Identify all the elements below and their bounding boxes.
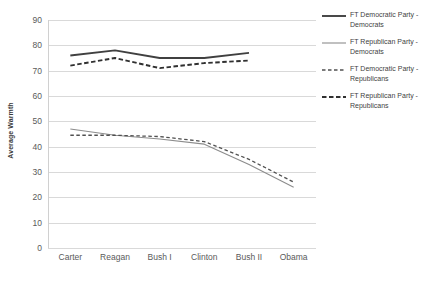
plot-area: [48, 20, 316, 248]
legend-line-swatch-icon: [322, 64, 346, 76]
x-axis-tick-label: Clinton: [191, 252, 217, 262]
legend-label: FT Republican Party - Democrats: [350, 37, 418, 57]
y-axis-tick-label: 40: [33, 142, 42, 152]
series-line: [70, 129, 293, 187]
legend-entry[interactable]: FT Republican Party - Democrats: [322, 37, 432, 57]
series-line: [70, 50, 249, 58]
y-axis-tick-label: 60: [33, 91, 42, 101]
legend-line-swatch-icon: [322, 37, 346, 49]
x-axis-tick-label: Obama: [280, 252, 308, 262]
y-axis-tick-label: 20: [33, 192, 42, 202]
y-axis-tick-label: 80: [33, 40, 42, 50]
series-lines: [48, 20, 316, 248]
legend-label: FT Republican Party - Republicans: [350, 91, 418, 111]
chart-legend: FT Democratic Party - DemocratsFT Republ…: [322, 10, 432, 118]
y-axis-tick-label: 30: [33, 167, 42, 177]
y-axis-tick-label: 50: [33, 116, 42, 126]
x-axis-tick-label: Bush II: [236, 252, 262, 262]
legend-entry[interactable]: FT Republican Party - Republicans: [322, 91, 432, 111]
legend-line-swatch-icon: [322, 10, 346, 22]
y-axis-tick-label: 10: [33, 218, 42, 228]
x-axis-tick-label: Carter: [59, 252, 83, 262]
legend-entry[interactable]: FT Democratic Party - Democrats: [322, 10, 432, 30]
y-axis-tick-label: 90: [33, 15, 42, 25]
x-axis-tick-label: Reagan: [100, 252, 130, 262]
y-axis-title-text: Average Warmth: [7, 102, 14, 159]
y-axis-tick-label: 0: [37, 243, 42, 253]
x-axis-tick-labels: CarterReaganBush IClintonBush IIObama: [48, 252, 316, 268]
legend-entry[interactable]: FT Democratic Party - Republicans: [322, 64, 432, 84]
legend-label: FT Democratic Party - Democrats: [350, 10, 418, 30]
x-axis-tick-label: Bush I: [148, 252, 172, 262]
y-axis-tick-labels: 9080706050403020100: [16, 20, 46, 248]
legend-line-swatch-icon: [322, 91, 346, 103]
legend-label: FT Democratic Party - Republicans: [350, 64, 418, 84]
gridline: [48, 248, 316, 249]
y-axis-tick-label: 70: [33, 66, 42, 76]
series-line: [70, 58, 249, 68]
line-chart: Average Warmth 9080706050403020100 Carte…: [0, 0, 434, 287]
series-line: [70, 135, 293, 182]
